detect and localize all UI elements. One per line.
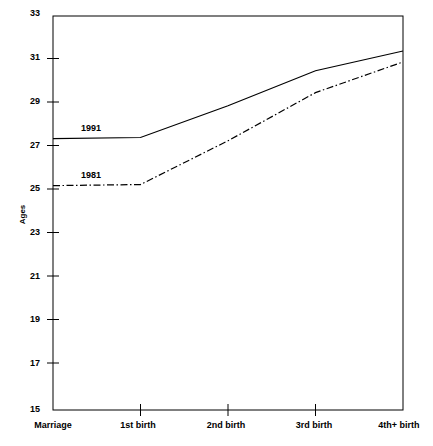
plot-area <box>0 0 433 446</box>
plot-frame <box>53 16 403 410</box>
line-chart: Ages 33 31 29 27 25 23 21 19 17 15 Marri… <box>0 0 433 446</box>
series-line-1981 <box>53 62 403 186</box>
series-line-1991 <box>53 51 403 139</box>
